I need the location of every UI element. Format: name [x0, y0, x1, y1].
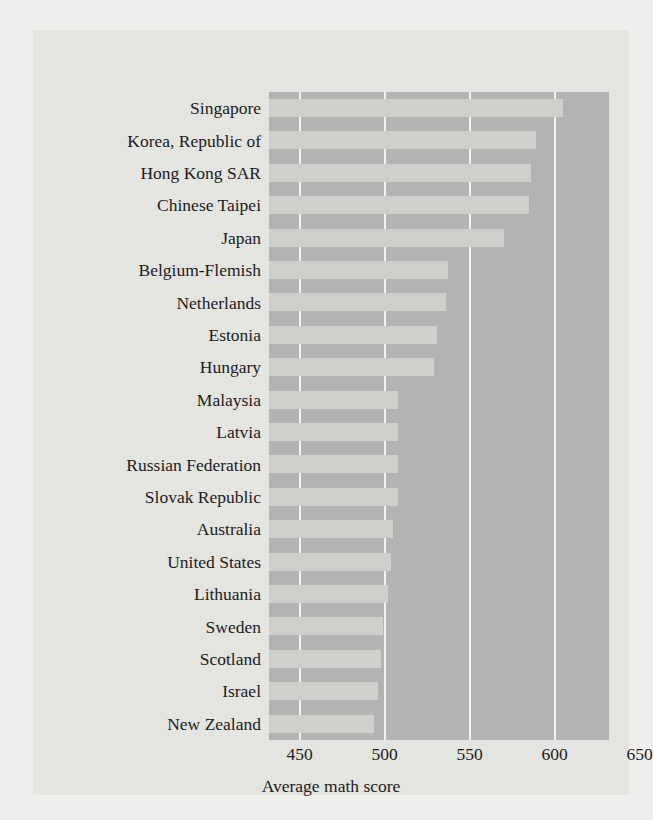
bar-row — [269, 189, 609, 221]
category-label: Hong Kong SAR — [73, 165, 261, 183]
x-tick-label: 550 — [456, 746, 482, 764]
bar — [269, 293, 446, 311]
bar-row — [269, 416, 609, 448]
bar-row — [269, 578, 609, 610]
category-label: Slovak Republic — [73, 489, 261, 507]
x-axis-title: Average math score — [33, 776, 629, 797]
x-tick-label: 500 — [371, 746, 397, 764]
category-label: Lithuania — [73, 586, 261, 604]
bar-row — [269, 254, 609, 286]
bar-row — [269, 708, 609, 740]
bar — [269, 164, 531, 182]
category-label: New Zealand — [73, 716, 261, 734]
bar — [269, 715, 374, 733]
bar-row — [269, 448, 609, 480]
x-tick-label: 650 — [626, 746, 652, 764]
bar — [269, 682, 378, 700]
category-axis-labels: SingaporeKorea, Republic ofHong Kong SAR… — [73, 92, 261, 740]
bar-row — [269, 124, 609, 156]
category-label: Sweden — [73, 619, 261, 637]
plot-area — [269, 92, 609, 740]
category-label: Netherlands — [73, 295, 261, 313]
bar-row — [269, 351, 609, 383]
bar-row — [269, 546, 609, 578]
category-label: Russian Federation — [73, 457, 261, 475]
category-label: Hungary — [73, 359, 261, 377]
category-label: Japan — [73, 230, 261, 248]
category-label: Malaysia — [73, 392, 261, 410]
category-label: Belgium-Flemish — [73, 262, 261, 280]
bar — [269, 99, 563, 117]
category-label: Australia — [73, 521, 261, 539]
figure-panel: SingaporeKorea, Republic ofHong Kong SAR… — [33, 30, 629, 795]
bar — [269, 455, 398, 473]
bar — [269, 391, 398, 409]
category-label: Israel — [73, 683, 261, 701]
bar-row — [269, 610, 609, 642]
bar — [269, 131, 536, 149]
category-label: United States — [73, 554, 261, 572]
bar — [269, 520, 393, 538]
category-label: Scotland — [73, 651, 261, 669]
bar-row — [269, 286, 609, 318]
category-label: Latvia — [73, 424, 261, 442]
bar — [269, 650, 381, 668]
x-axis-tick-labels: 450500550600650 — [33, 746, 629, 772]
bar-row — [269, 643, 609, 675]
bar-row — [269, 222, 609, 254]
category-label: Korea, Republic of — [73, 133, 261, 151]
bar-row — [269, 92, 609, 124]
bar — [269, 585, 388, 603]
category-label: Chinese Taipei — [73, 197, 261, 215]
bar — [269, 326, 437, 344]
bar — [269, 617, 383, 635]
bar — [269, 358, 434, 376]
category-label: Estonia — [73, 327, 261, 345]
bar-row — [269, 675, 609, 707]
x-tick-label: 450 — [286, 746, 312, 764]
bar — [269, 488, 398, 506]
bar — [269, 553, 391, 571]
x-tick-label: 600 — [541, 746, 567, 764]
bar — [269, 423, 398, 441]
bar-row — [269, 513, 609, 545]
bar — [269, 196, 529, 214]
bar — [269, 261, 448, 279]
bar-row — [269, 481, 609, 513]
bar — [269, 229, 504, 247]
category-label: Singapore — [73, 100, 261, 118]
bar-row — [269, 384, 609, 416]
bar-row — [269, 157, 609, 189]
bar-row — [269, 319, 609, 351]
